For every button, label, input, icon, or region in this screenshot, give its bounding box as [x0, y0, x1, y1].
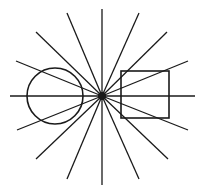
ray-line [36, 96, 102, 159]
ray-line [102, 96, 168, 159]
ray-line [36, 32, 102, 96]
diagram-svg [0, 0, 205, 194]
illusion-diagram [0, 0, 205, 194]
center-point [98, 92, 106, 100]
ray-line [102, 32, 167, 96]
